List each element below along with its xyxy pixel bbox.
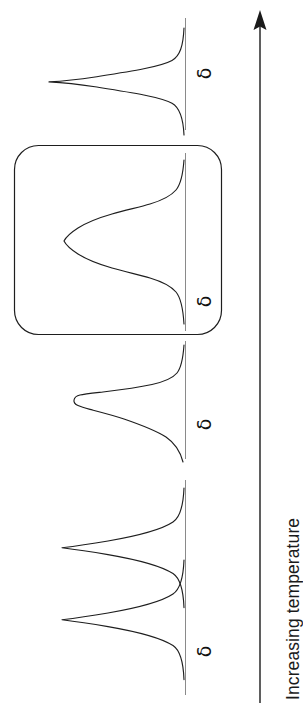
spectrum-panel-top: δ xyxy=(0,0,230,145)
baseline-axis-bottom xyxy=(185,480,186,695)
temperature-arrow xyxy=(248,0,278,716)
temperature-axis-label: Increasing temperature xyxy=(283,518,303,700)
axis-label-delta-coalescence: δ xyxy=(195,292,214,312)
spectrum-panel-coalescence: δ xyxy=(0,140,240,340)
axis-label-delta-intermediate: δ xyxy=(195,415,214,435)
baseline-axis-top xyxy=(185,18,186,130)
trace-bottom xyxy=(0,460,230,710)
nmr-coalescence-figure: δ δ δ δ Increasing temperatur xyxy=(0,0,303,716)
trace-intermediate xyxy=(0,335,230,465)
axis-label-delta-top: δ xyxy=(195,64,214,84)
baseline-axis-intermediate xyxy=(185,341,186,459)
axis-label-delta-bottom: δ xyxy=(195,642,214,662)
spectrum-panel-bottom: δ xyxy=(0,460,230,710)
spectrum-panel-intermediate: δ xyxy=(0,335,230,465)
